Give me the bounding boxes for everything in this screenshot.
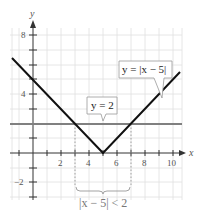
- callout-abs: y = |x − 5|: [119, 61, 172, 98]
- x-tick-10: 10: [167, 158, 177, 168]
- x-tick-6: 6: [114, 158, 119, 168]
- callout-y-equals-2-text: y = 2: [91, 99, 114, 111]
- y-axis-label: y: [29, 8, 35, 19]
- callout-abs-text: y = |x − 5|: [122, 63, 166, 75]
- y-tick-8: 8: [21, 30, 26, 40]
- chart: x 2 4 6 8 10 y 8 4 −2: [0, 0, 204, 213]
- y-tick-4: 4: [21, 89, 26, 99]
- x-tick-2: 2: [58, 158, 63, 168]
- y-axis-arrow-icon: [30, 20, 36, 28]
- x-axis-label: x: [188, 147, 194, 158]
- x-tick-8: 8: [142, 158, 147, 168]
- inequality-label: |x − 5| < 2: [79, 196, 127, 210]
- callout-y-equals-2: y = 2: [87, 97, 117, 121]
- y-axis: y 8 4 −2: [14, 8, 37, 200]
- x-axis-arrow-icon: [179, 150, 186, 156]
- y-tick-neg2: −2: [14, 177, 24, 187]
- x-axis: x 2 4 6 8 10: [10, 147, 194, 168]
- x-tick-4: 4: [86, 158, 91, 168]
